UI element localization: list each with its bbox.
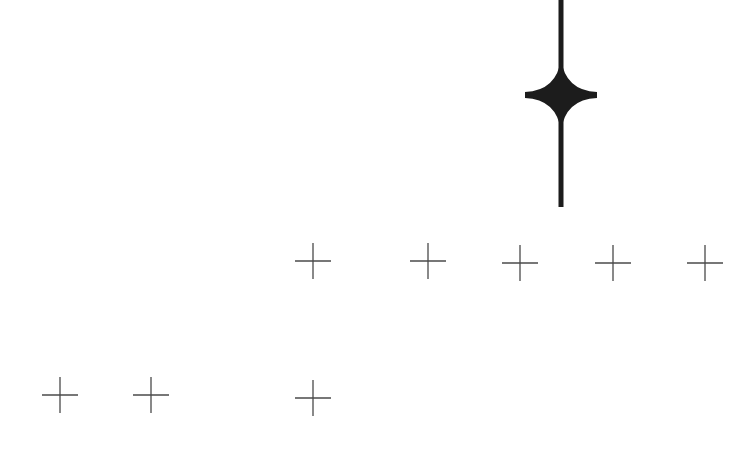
plus-cross-icon <box>502 245 538 281</box>
plus-cross-icon <box>295 380 331 416</box>
plus-cross-icon <box>595 245 631 281</box>
plus-cross-icon <box>410 243 446 279</box>
drawing-svg <box>0 0 752 471</box>
plus-cross-icon <box>133 377 169 413</box>
four-point-star-icon <box>525 59 597 131</box>
plus-cross-icon <box>295 243 331 279</box>
drawing-canvas <box>0 0 752 471</box>
plus-cross-icon <box>42 377 78 413</box>
star-marker <box>525 0 597 207</box>
cross-markers <box>42 243 723 416</box>
plus-cross-icon <box>687 245 723 281</box>
cross-row-upper-row <box>295 243 723 281</box>
cross-row-lower-row <box>42 377 331 416</box>
